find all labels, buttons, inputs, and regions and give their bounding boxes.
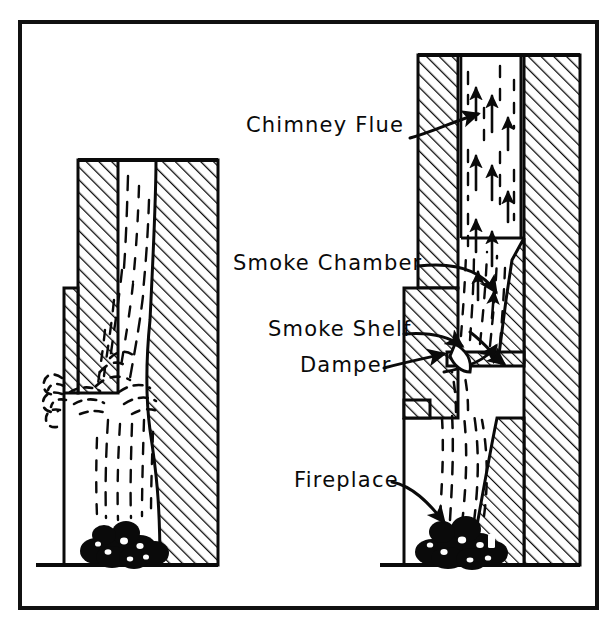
- left-diagram-masonry-lintel: [64, 288, 78, 393]
- label-smoke-shelf: Smoke Shelf: [268, 317, 412, 341]
- label-fireplace: Fireplace: [294, 468, 399, 492]
- label-chimney-flue: Chimney Flue: [246, 113, 404, 137]
- right-diagram-masonry-left-foot: [404, 400, 430, 418]
- fireplace-cross-section-diagram: Chimney Flue Smoke Chamber Smoke Shelf D…: [0, 0, 616, 629]
- label-smoke-chamber: Smoke Chamber: [233, 251, 422, 275]
- left-diagram-masonry-right: [147, 160, 218, 565]
- right-diagram-masonry-right-upper: [524, 55, 580, 565]
- label-damper: Damper: [300, 353, 392, 377]
- figure-root: Chimney Flue Smoke Chamber Smoke Shelf D…: [0, 0, 616, 629]
- left-diagram-masonry-left-upper: [78, 160, 118, 393]
- right-diagram-masonry-left-upper: [418, 55, 458, 288]
